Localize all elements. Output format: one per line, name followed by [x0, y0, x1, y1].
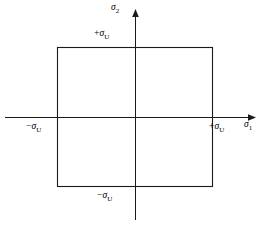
tick-label-negative-sigma-u-y: −σU — [97, 191, 112, 201]
tick-label-positive-sigma-u-y: +σU — [94, 29, 109, 39]
x-axis-sigma-symbol: σ — [244, 119, 249, 129]
stress-failure-envelope-figure: σ2 σ1 +σU −σU +σU −σU — [0, 0, 270, 229]
y-axis-arrow-icon — [132, 9, 139, 17]
x-axis-sigma-subscript: 1 — [249, 124, 253, 132]
tick-subscript-right: U — [219, 126, 224, 134]
y-axis-sigma-symbol: σ — [111, 2, 116, 12]
tick-label-negative-sigma-u-x: −σU — [26, 122, 41, 132]
x-axis-label: σ1 — [244, 120, 252, 130]
tick-subscript-bottom: U — [107, 195, 112, 203]
tick-subscript-top: U — [104, 33, 109, 41]
y-axis-label: σ2 — [111, 3, 119, 13]
tick-subscript-left: U — [36, 126, 41, 134]
y-axis-sigma-subscript: 2 — [116, 7, 120, 15]
diagram-canvas — [0, 0, 270, 229]
tick-label-positive-sigma-u-x: +σU — [209, 122, 224, 132]
